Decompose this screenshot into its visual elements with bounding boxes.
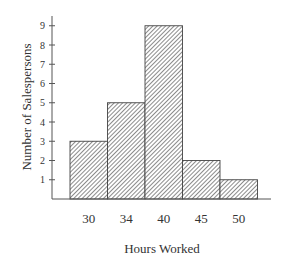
y-tick-label: 7 <box>40 59 45 70</box>
bar-45 <box>183 161 221 200</box>
bars-group <box>70 26 258 199</box>
x-tick-label: 40 <box>157 211 170 226</box>
y-tick-label: 9 <box>40 20 45 31</box>
y-tick-label: 6 <box>40 78 45 89</box>
x-axis-label: Hours Worked <box>124 241 200 256</box>
x-tick-label: 50 <box>232 211 245 226</box>
y-tick-label: 4 <box>40 117 45 128</box>
y-tick-label: 3 <box>40 136 45 147</box>
histogram-chart: 123456789 3034404550 Hours Worked Number… <box>0 0 285 262</box>
y-tick-label: 2 <box>40 155 45 166</box>
bar-30 <box>70 141 108 199</box>
y-ticks-group: 123456789 <box>40 20 55 185</box>
y-tick-label: 8 <box>40 40 45 51</box>
y-axis-label: Number of Salespersons <box>19 43 34 170</box>
x-tick-label: 30 <box>82 211 95 226</box>
x-tick-label: 45 <box>195 211 208 226</box>
bar-34 <box>108 103 146 199</box>
y-tick-label: 1 <box>40 174 45 185</box>
bar-50 <box>220 180 258 199</box>
bar-40 <box>145 26 183 199</box>
x-ticks-group: 3034404550 <box>82 211 245 226</box>
x-tick-label: 34 <box>120 211 134 226</box>
y-tick-label: 5 <box>40 97 45 108</box>
